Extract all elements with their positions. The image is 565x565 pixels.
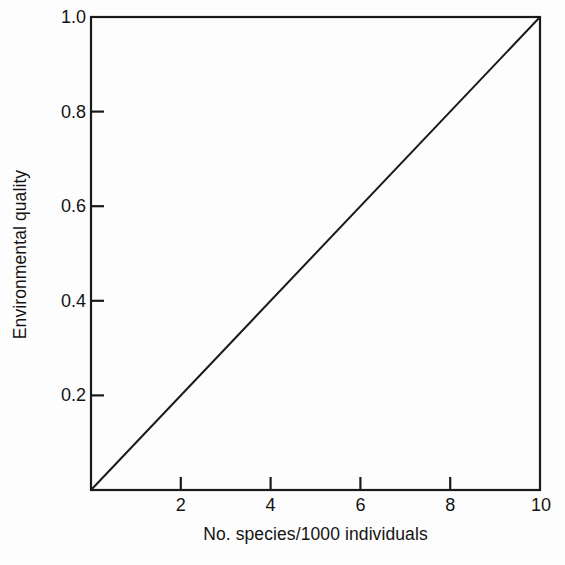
y-axis-ticks <box>91 112 104 396</box>
x-axis-title-text: No. species/1000 individuals <box>203 524 428 544</box>
x-axis-tick-labels: 2 4 6 8 10 <box>0 496 565 526</box>
x-tick-label-4: 4 <box>249 496 293 514</box>
y-axis-title: Environmental quality <box>0 0 42 508</box>
chart-figure: 1.0 0.8 0.6 0.4 0.2 2 4 6 8 10 Environme… <box>0 0 565 565</box>
x-axis-title: No. species/1000 individuals <box>91 524 540 545</box>
x-tick-label-2: 2 <box>159 496 203 514</box>
x-axis-ticks <box>181 477 450 490</box>
x-tick-label-6: 6 <box>338 496 382 514</box>
x-tick-label-8: 8 <box>428 496 472 514</box>
y-axis-title-text: Environmental quality <box>11 169 32 338</box>
x-tick-label-10: 10 <box>519 496 563 514</box>
data-line-series-1 <box>91 17 540 490</box>
